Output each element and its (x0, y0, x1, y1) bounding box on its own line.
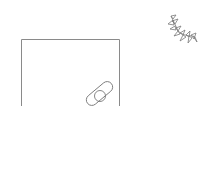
sketch-canvas (0, 0, 218, 171)
sketch-svg (0, 0, 218, 171)
capsule-with-circle-icon (84, 79, 115, 107)
leaf-sprig-icon (168, 15, 197, 43)
